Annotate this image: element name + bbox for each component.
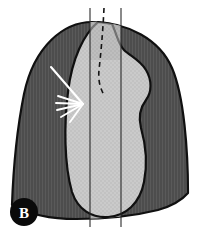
chest-radiograph-schematic: B: [0, 0, 200, 239]
panel-letter-badge: B: [10, 198, 38, 226]
white-converging-line-2: [56, 103, 83, 104]
figure-panel-b: B: [0, 0, 200, 239]
panel-letter-glyph: B: [19, 205, 29, 221]
